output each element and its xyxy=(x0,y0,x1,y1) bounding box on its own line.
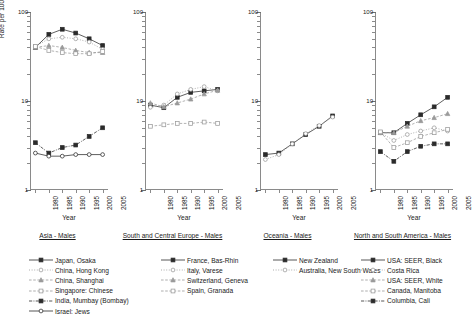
legend-item[interactable]: USA: SEER, White xyxy=(360,275,443,285)
legend-key xyxy=(360,265,386,275)
series-line xyxy=(35,37,102,49)
panel-title: South and Central Europe - Males xyxy=(115,232,230,239)
legend-column-2: France, Bas-RhinItaly, VareseSwitzerland… xyxy=(160,255,248,296)
x-tick-label: 1990 xyxy=(424,196,431,210)
legend-item[interactable]: Spain, Granada xyxy=(160,286,248,296)
series-point xyxy=(101,126,105,130)
series-point xyxy=(47,49,51,53)
legend-key xyxy=(28,286,54,296)
panel-4: 100101198019851990199520002005YearNorth … xyxy=(345,0,460,250)
x-axis-label: Year xyxy=(375,214,453,221)
series-layer xyxy=(30,12,108,190)
legend-item[interactable]: Israel: Jews xyxy=(28,306,129,316)
series-point xyxy=(87,52,91,56)
x-axis-label: Year xyxy=(30,214,108,221)
figure-legend: Japan, OsakaChina, Hong KongChina, Shang… xyxy=(0,255,457,320)
series-point xyxy=(446,95,450,99)
series-line xyxy=(265,116,332,155)
panel-3: 100101198019851990199520002005YearOceani… xyxy=(230,0,345,250)
legend-key xyxy=(28,275,54,285)
legend-item[interactable]: China, Hong Kong xyxy=(28,265,129,275)
legend-item[interactable]: USA: SEER, Black xyxy=(360,255,443,265)
series-line xyxy=(380,128,447,141)
legend-label: China, Shanghai xyxy=(55,277,104,284)
x-tick-label: 1980 xyxy=(52,196,59,210)
series-point xyxy=(60,51,64,55)
series-layer xyxy=(375,12,453,190)
legend-label: India, Mumbay (Bombay) xyxy=(55,297,129,304)
legend-key xyxy=(360,255,386,265)
legend-item[interactable]: Singapore: Chinese xyxy=(28,286,129,296)
plot-area: 100101198019851990199520002005 xyxy=(145,12,223,190)
legend-label: Switzerland, Geneva xyxy=(187,277,248,284)
x-tick-label: 2000 xyxy=(221,196,228,210)
y-tick-label: 1 xyxy=(25,187,28,193)
series-point xyxy=(60,146,64,150)
series-point xyxy=(189,88,193,92)
series-point xyxy=(175,122,179,126)
y-tick-label: 1 xyxy=(370,187,373,193)
series-line xyxy=(380,129,447,147)
legend-item[interactable]: Italy, Varese xyxy=(160,265,248,275)
series-point xyxy=(33,151,37,155)
legend-item[interactable]: Canada, Manitoba xyxy=(360,286,443,296)
legend-key xyxy=(28,296,54,306)
series-point xyxy=(432,115,436,119)
legend-item[interactable]: Switzerland, Geneva xyxy=(160,275,248,285)
series-point xyxy=(445,111,449,115)
series-point xyxy=(33,45,37,49)
series-point xyxy=(277,153,281,157)
y-tick-label: 10 xyxy=(251,98,258,104)
x-tick-label: 1980 xyxy=(397,196,404,210)
series-line xyxy=(150,87,217,108)
x-tick-label: 1995 xyxy=(438,196,445,210)
legend-column-4: USA: SEER, BlackCosta RicaUSA: SEER, Whi… xyxy=(360,255,443,306)
legend-key xyxy=(360,275,386,285)
legend-item[interactable]: France, Bas-Rhin xyxy=(160,255,248,265)
series-point xyxy=(74,37,78,41)
legend-label: Israel: Jews xyxy=(55,308,90,315)
y-tick-label: 10 xyxy=(21,98,28,104)
legend-label: Costa Rica xyxy=(387,267,419,274)
legend-label: USA: SEER, White xyxy=(387,277,443,284)
legend-item[interactable]: Costa Rica xyxy=(360,265,443,275)
series-line xyxy=(35,153,102,156)
y-tick-label: 100 xyxy=(133,9,143,15)
series-point xyxy=(202,85,206,89)
series-point xyxy=(446,127,450,131)
series-point xyxy=(263,158,267,162)
legend-item[interactable]: India, Mumbay (Bombay) xyxy=(28,296,129,306)
series-line xyxy=(35,46,102,53)
series-point xyxy=(101,50,105,54)
x-tick-label: 1995 xyxy=(93,196,100,210)
y-tick-label: 100 xyxy=(18,9,28,15)
series-point xyxy=(202,120,206,124)
legend-item[interactable]: Japan, Osaka xyxy=(28,255,129,265)
series-point xyxy=(317,124,321,128)
series-point xyxy=(216,122,220,126)
legend-label: Singapore: Chinese xyxy=(55,287,113,294)
series-point xyxy=(87,135,91,139)
legend-item[interactable]: Columbia, Cali xyxy=(360,296,443,306)
series-point xyxy=(432,131,436,135)
series-point xyxy=(148,124,152,128)
x-tick-label: 1990 xyxy=(194,196,201,210)
series-point xyxy=(392,159,396,163)
x-tick-label: 2000 xyxy=(451,196,458,210)
series-point xyxy=(148,101,152,105)
series-point xyxy=(378,150,382,154)
series-line xyxy=(35,128,102,153)
y-tick-label: 100 xyxy=(363,9,373,15)
series-point xyxy=(432,142,436,146)
series-point xyxy=(405,133,409,137)
series-line xyxy=(380,144,447,161)
x-tick-label: 1985 xyxy=(411,196,418,210)
legend-label: France, Bas-Rhin xyxy=(187,257,238,264)
series-point xyxy=(290,142,294,146)
x-tick-label: 2005 xyxy=(465,196,472,210)
series-layer xyxy=(145,12,223,190)
series-point xyxy=(162,123,166,127)
legend-label: USA: SEER, Black xyxy=(387,257,442,264)
legend-item[interactable]: China, Shanghai xyxy=(28,275,129,285)
panel-title: Oceania - Males xyxy=(230,232,345,239)
